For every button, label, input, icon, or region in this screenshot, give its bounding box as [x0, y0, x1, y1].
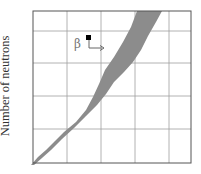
arrow-icon	[89, 40, 102, 48]
neutron-chart: β	[0, 0, 201, 174]
nucleus-marker	[86, 35, 91, 40]
stability-band	[31, 11, 162, 165]
beta-annotation: β	[74, 35, 104, 51]
beta-label: β	[74, 37, 81, 51]
